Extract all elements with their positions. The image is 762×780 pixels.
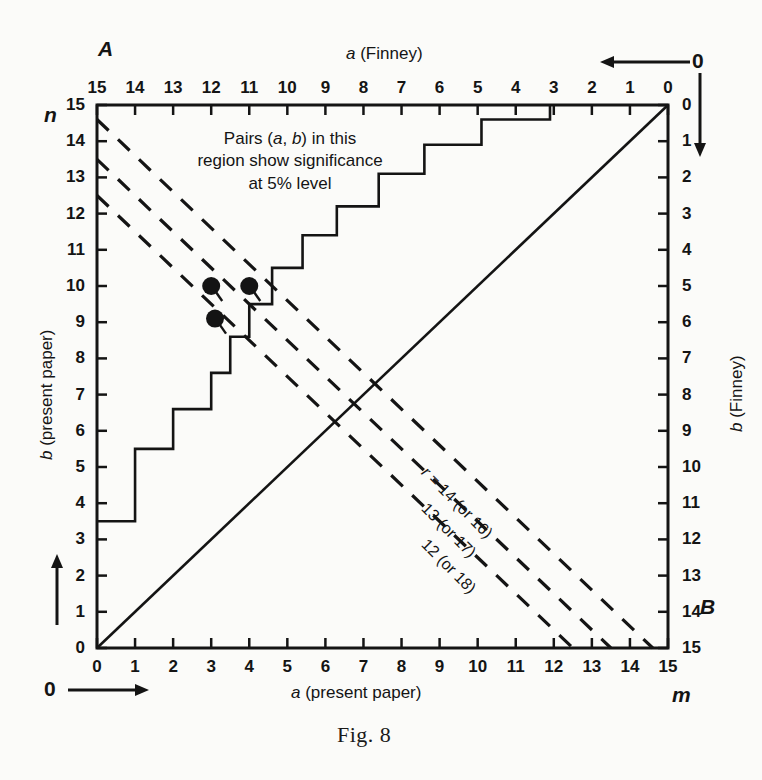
top-tick-9: 9 (313, 79, 337, 96)
right-tick-10: 10 (682, 458, 701, 475)
left-axis-symbol-n: n (44, 104, 57, 125)
annotation-line-3: at 5% level (155, 173, 425, 195)
right-tick-3: 3 (682, 205, 691, 222)
top-tick-12: 12 (199, 79, 223, 96)
left-tick-3: 3 (59, 530, 85, 547)
left-tick-4: 4 (59, 494, 85, 511)
left-axis-title: b (present paper) (38, 330, 55, 460)
bottom-tick-13: 13 (580, 658, 604, 675)
left-tick-15: 15 (59, 96, 85, 113)
bottom-tick-10: 10 (466, 658, 490, 675)
bottom-tick-8: 8 (390, 658, 414, 675)
top-tick-8: 8 (351, 79, 375, 96)
top-axis-title: a (Finney) (346, 45, 423, 62)
bottom-axis-title: a (present paper) (291, 684, 421, 701)
origin-zero-bottom-left: 0 (44, 678, 56, 699)
bottom-tick-7: 7 (351, 658, 375, 675)
left-tick-10: 10 (59, 277, 85, 294)
bottom-tick-15: 15 (656, 658, 680, 675)
left-tick-12: 12 (59, 205, 85, 222)
left-tick-7: 7 (59, 386, 85, 403)
top-tick-5: 5 (466, 79, 490, 96)
right-tick-6: 6 (682, 313, 691, 330)
left-tick-6: 6 (59, 422, 85, 439)
top-tick-6: 6 (428, 79, 452, 96)
data-marker-tail-1 (215, 291, 222, 301)
bottom-tick-14: 14 (618, 658, 642, 675)
bottom-tick-9: 9 (428, 658, 452, 675)
annotation-line-1: Pairs (a, b) in this (155, 128, 425, 150)
top-axis-title-rest: (Finney) (355, 44, 422, 63)
right-axis-title: b (Finney) (728, 355, 745, 432)
bottom-tick-1: 1 (123, 658, 147, 675)
top-tick-4: 4 (504, 79, 528, 96)
left-tick-13: 13 (59, 168, 85, 185)
top-tick-0: 0 (656, 79, 680, 96)
right-tick-13: 13 (682, 567, 701, 584)
left-tick-9: 9 (59, 313, 85, 330)
data-marker-tail-3 (219, 324, 226, 334)
left-tick-14: 14 (59, 132, 85, 149)
significance-annotation: Pairs (a, b) in this region show signifi… (155, 128, 425, 195)
right-tick-12: 12 (682, 530, 701, 547)
figure-caption: Fig. 8 (337, 722, 391, 748)
left-tick-1: 1 (59, 603, 85, 620)
bottom-tick-12: 12 (542, 658, 566, 675)
right-tick-11: 11 (682, 494, 700, 511)
left-tick-0: 0 (59, 639, 85, 656)
top-tick-11: 11 (237, 79, 261, 96)
bottom-tick-4: 4 (237, 658, 261, 675)
left-tick-8: 8 (59, 349, 85, 366)
right-tick-4: 4 (682, 241, 691, 258)
right-tick-2: 2 (682, 168, 691, 185)
bottom-axis-title-rest: (present paper) (300, 683, 421, 702)
bottom-tick-2: 2 (161, 658, 185, 675)
top-tick-3: 3 (542, 79, 566, 96)
figure-container: A B n m 0 0 a (Finney) a (present paper)… (0, 0, 762, 780)
right-tick-15: 15 (682, 639, 701, 656)
top-tick-13: 13 (161, 79, 185, 96)
right-tick-7: 7 (682, 349, 691, 366)
left-axis-title-italic: b (37, 451, 56, 460)
right-axis-title-italic: b (727, 423, 746, 432)
right-tick-8: 8 (682, 386, 691, 403)
left-tick-11: 11 (59, 241, 85, 258)
bottom-tick-11: 11 (504, 658, 528, 675)
corner-label-A: A (98, 38, 113, 59)
right-tick-5: 5 (682, 277, 691, 294)
corner-label-B: B (700, 596, 715, 617)
top-tick-7: 7 (390, 79, 414, 96)
bottom-axis-symbol-m: m (672, 684, 691, 705)
top-tick-15: 15 (85, 79, 109, 96)
bottom-tick-6: 6 (313, 658, 337, 675)
annotation-line-2: region show significance (155, 150, 425, 172)
right-axis-title-rest: (Finney) (727, 355, 746, 422)
right-tick-9: 9 (682, 422, 691, 439)
top-tick-10: 10 (275, 79, 299, 96)
left-tick-5: 5 (59, 458, 85, 475)
bottom-tick-3: 3 (199, 658, 223, 675)
plot-canvas (0, 0, 762, 780)
left-tick-2: 2 (59, 567, 85, 584)
origin-zero-top-right: 0 (692, 50, 704, 71)
data-marker-tail-2 (253, 291, 260, 301)
left-axis-title-rest: (present paper) (37, 330, 56, 451)
top-tick-1: 1 (618, 79, 642, 96)
right-tick-14: 14 (682, 603, 701, 620)
bottom-tick-0: 0 (85, 658, 109, 675)
top-tick-14: 14 (123, 79, 147, 96)
bottom-tick-5: 5 (275, 658, 299, 675)
right-tick-1: 1 (682, 132, 691, 149)
right-tick-0: 0 (682, 96, 691, 113)
top-tick-2: 2 (580, 79, 604, 96)
